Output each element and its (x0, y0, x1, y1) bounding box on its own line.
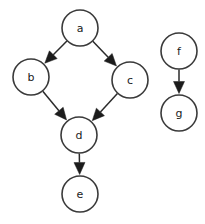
graph-node-g[interactable]: g (161, 95, 197, 131)
edge-line-c-d (100, 94, 117, 112)
arrowhead-f-g (174, 82, 185, 94)
arrowhead-d-e (74, 162, 85, 174)
edge-line-a-b (53, 41, 67, 55)
graph-edge-a-to-b (45, 41, 67, 63)
directed-graph: abcdefg (0, 0, 205, 224)
graph-edge-d-to-e (74, 154, 85, 175)
graph-node-d[interactable]: d (61, 117, 97, 153)
node-label-c: c (127, 74, 133, 87)
graph-node-b[interactable]: b (13, 59, 49, 95)
node-label-d: d (76, 129, 83, 142)
graph-edge-c-to-d (92, 94, 117, 121)
graph-node-e[interactable]: e (62, 176, 98, 212)
arrowhead-b-d (55, 107, 67, 120)
node-label-e: e (77, 188, 84, 201)
graph-edge-f-to-g (174, 70, 185, 94)
graph-edge-b-to-d (43, 91, 67, 120)
node-label-b: b (28, 71, 35, 84)
nodes-layer: abcdefg (13, 10, 197, 212)
graph-canvas: abcdefg (0, 0, 205, 224)
node-label-a: a (77, 22, 84, 35)
edge-line-b-d (43, 91, 59, 110)
graph-node-a[interactable]: a (62, 10, 98, 46)
graph-node-f[interactable]: f (161, 33, 197, 69)
node-label-g: g (176, 107, 183, 120)
edge-line-a-c (93, 41, 108, 57)
graph-node-c[interactable]: c (112, 62, 148, 98)
graph-edge-a-to-c (93, 41, 117, 66)
